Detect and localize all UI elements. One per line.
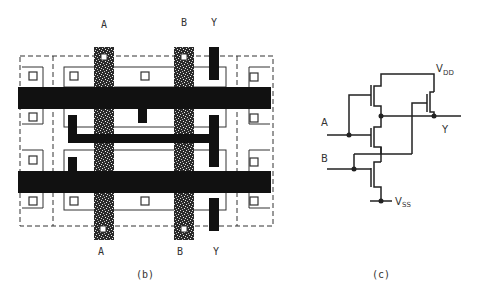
schematic-label-y: Y xyxy=(441,124,449,135)
svg-text:V: V xyxy=(436,63,443,74)
svg-text:V: V xyxy=(395,196,402,207)
layout-caption: (b) xyxy=(136,269,154,280)
layout-label-top-b: B xyxy=(181,17,187,28)
metal-rail-vss xyxy=(18,171,271,193)
svg-text:SS: SS xyxy=(402,201,411,209)
vdd-label: V DD xyxy=(436,63,454,77)
poly-gate-b xyxy=(174,47,194,240)
svg-text:DD: DD xyxy=(443,69,454,77)
schematic-label-a: A xyxy=(321,117,328,128)
schematic-nodes xyxy=(347,114,437,204)
layout-label-bottom-y: Y xyxy=(213,246,219,257)
metal-rail-vdd xyxy=(18,87,271,109)
layout-label-top-a: A xyxy=(101,19,107,30)
layout-label-bottom-b: B xyxy=(177,246,183,257)
layout-label-top-y: Y xyxy=(211,17,217,28)
vss-label: V SS xyxy=(395,196,411,209)
nand-schematic xyxy=(327,74,461,201)
schematic-caption: (c) xyxy=(372,269,390,280)
poly-gate-a xyxy=(94,47,114,240)
layout-label-bottom-a: A xyxy=(98,246,104,257)
cmos-layout: A B Y A B Y (b) xyxy=(18,17,273,280)
diagram-canvas: A B Y A B Y (b) xyxy=(0,0,477,300)
schematic-label-b: B xyxy=(321,153,328,164)
